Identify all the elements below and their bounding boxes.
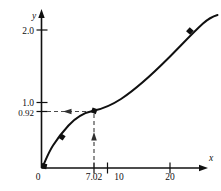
x-tick-label-7-02: 7.02	[86, 172, 103, 182]
x-tick-label-0: 0	[36, 172, 41, 182]
figure-container: y x 2.0 1.0 0.92 0 7.02 10 20	[0, 0, 221, 191]
curve-path	[43, 15, 218, 167]
y-axis-arrowhead	[38, 9, 44, 18]
y-tick-label-2-0: 2.0	[22, 26, 34, 36]
data-curve-group	[43, 15, 218, 167]
x-tick-label-10: 10	[114, 172, 124, 182]
x-axis-label: x	[208, 153, 214, 163]
y-axis-label: y	[31, 11, 37, 21]
data-point-marker	[41, 163, 47, 169]
x-tick-label-20: 20	[165, 172, 175, 182]
annotation-guides	[44, 109, 97, 167]
y-tick-label-1-0: 1.0	[22, 98, 34, 108]
x-axis-arrowhead	[199, 165, 208, 171]
vertical-guide-arrowhead	[91, 132, 97, 141]
data-point-markers	[41, 27, 194, 169]
chart-svg: y x 2.0 1.0 0.92 0 7.02 10 20	[0, 0, 221, 191]
axes-group	[38, 9, 208, 171]
horizontal-guide-arrowhead	[63, 109, 72, 115]
y-tick-label-0-92: 0.92	[18, 108, 34, 118]
data-point-marker	[91, 107, 98, 114]
data-point-marker	[58, 133, 65, 140]
